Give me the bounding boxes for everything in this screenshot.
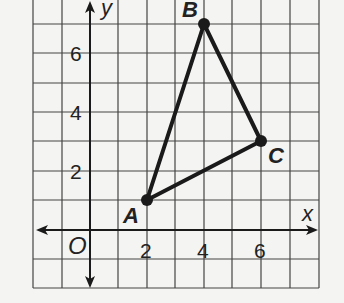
y-tick-6: 6 (70, 43, 82, 64)
x-axis-label: x (302, 203, 313, 225)
vertex-b-label: B (182, 0, 198, 21)
vertex-c-label: C (268, 145, 284, 167)
x-tick-6: 6 (254, 240, 266, 261)
vertex-c-point (255, 135, 267, 147)
origin-label: O (68, 234, 87, 258)
coordinate-plane: y x O 6 4 2 2 4 6 A B C (0, 0, 344, 303)
y-axis-label: y (101, 0, 112, 19)
grid-canvas (0, 0, 344, 303)
vertex-b-point (198, 18, 210, 30)
vertex-a-label: A (123, 205, 139, 227)
y-tick-2: 2 (70, 161, 82, 182)
x-tick-4: 4 (197, 240, 209, 261)
vertex-a-point (141, 194, 153, 206)
x-tick-2: 2 (140, 240, 152, 261)
y-tick-4: 4 (70, 102, 82, 123)
